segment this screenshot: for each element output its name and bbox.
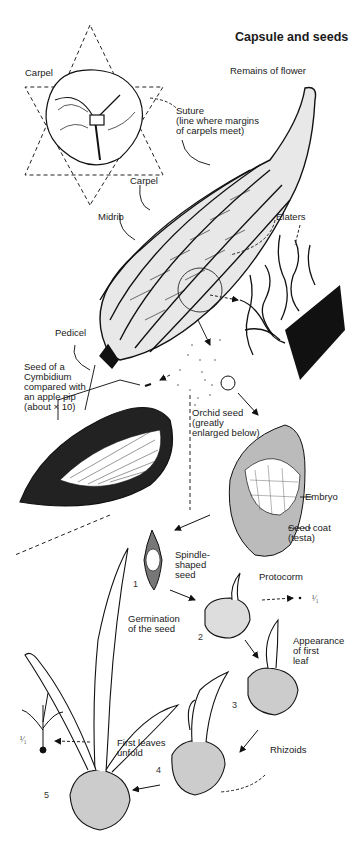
stage-number-2: 2 [198, 632, 203, 642]
scale-protocorm: ¹⁄₁ [312, 594, 319, 603]
label-suture: Suture (line where margins of carpels me… [176, 106, 259, 136]
label-orchid-seed: Orchid seed (greatly enlarged below) [192, 408, 260, 438]
label-midrib: Midrib [98, 212, 124, 222]
flower-cross-section [46, 70, 143, 165]
spindle-seed [144, 530, 162, 590]
label-carpel-top: Carpel [25, 68, 53, 78]
seedling-stage-5 [25, 548, 178, 830]
label-first-leaves: First leaves unfold [117, 738, 166, 758]
seedling-stage-3 [248, 620, 298, 715]
capsule-wall-section [285, 285, 345, 380]
label-remains-of-flower: Remains of flower [230, 66, 306, 76]
label-carpel-mid: Carpel [130, 176, 158, 186]
seedling-stage-4 [172, 672, 228, 795]
figure-title: Capsule and seeds [235, 30, 348, 44]
stage-number-4: 4 [156, 765, 161, 775]
label-embryo: Embryo [305, 492, 338, 502]
stage-number-3: 3 [232, 700, 237, 710]
apple-pip [20, 408, 173, 506]
label-seed-coat: Seed coat (testa) [288, 523, 331, 543]
scale-seedling: ¹⁄₁ [20, 735, 27, 744]
stage-number-1: 1 [133, 579, 138, 589]
seed-dust [177, 329, 221, 406]
label-pedicel: Pedicel [55, 328, 86, 338]
label-seed-compare: Seed of a Cymbidium compared with an app… [24, 362, 86, 412]
orchid-seed-circle [221, 376, 235, 390]
label-protocorm: Protocorm [259, 572, 303, 582]
label-spindle-seed: Spindle- shaped seed [175, 550, 210, 580]
protocorm [205, 573, 250, 638]
label-elaters: Elaters [276, 212, 306, 222]
stage-number-5: 5 [44, 790, 49, 800]
label-rhizoids: Rhizoids [270, 745, 306, 755]
label-germination: Germination of the seed [128, 614, 180, 634]
label-first-leaf: Appearance of first leaf [293, 636, 344, 666]
